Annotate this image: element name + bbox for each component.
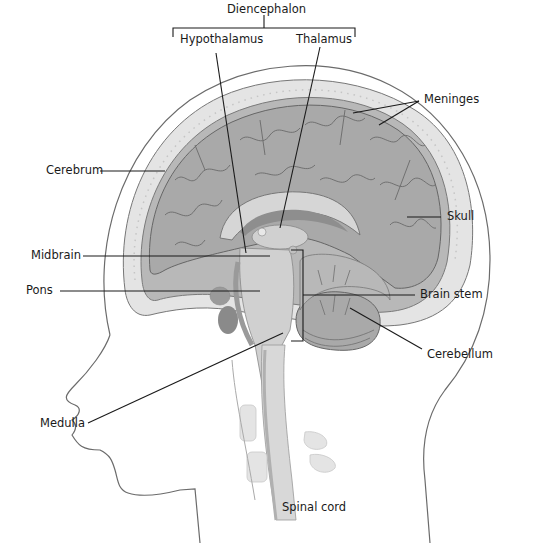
label-cerebrum: Cerebrum bbox=[46, 165, 103, 177]
face-outline bbox=[66, 335, 200, 543]
label-spinal-cord: Spinal cord bbox=[282, 502, 346, 514]
brain-diagram: Diencephalon Hypothalamus Thalamus Menin… bbox=[0, 0, 533, 543]
brain-illustration bbox=[0, 0, 533, 543]
label-meninges: Meninges bbox=[424, 94, 479, 106]
label-thalamus: Thalamus bbox=[296, 34, 352, 46]
label-hypothalamus: Hypothalamus bbox=[180, 34, 263, 46]
label-cerebellum: Cerebellum bbox=[427, 349, 493, 361]
label-skull: Skull bbox=[447, 211, 474, 223]
label-pons: Pons bbox=[26, 285, 53, 297]
label-medulla: Medulla bbox=[40, 418, 85, 430]
label-midbrain: Midbrain bbox=[31, 250, 81, 262]
label-diencephalon: Diencephalon bbox=[227, 4, 306, 16]
label-brain-stem: Brain stem bbox=[420, 289, 483, 301]
cerebellum-shape bbox=[296, 292, 380, 351]
